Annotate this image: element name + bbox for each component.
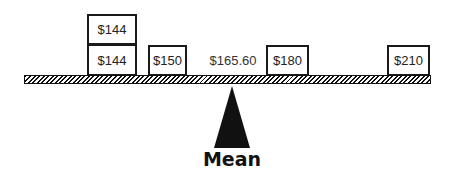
value-label: $180 bbox=[273, 53, 302, 68]
value-label: $210 bbox=[394, 53, 423, 68]
value-box-144-top: $144 bbox=[87, 14, 137, 45]
value-box-180: $180 bbox=[266, 45, 309, 76]
fulcrum-triangle-icon bbox=[212, 86, 252, 150]
mean-label: Mean bbox=[192, 148, 272, 170]
mean-value-label: $165.60 bbox=[198, 53, 268, 68]
value-box-210: $210 bbox=[387, 45, 430, 76]
value-label: $144 bbox=[98, 53, 127, 68]
value-box-144-bottom: $144 bbox=[87, 44, 137, 76]
seesaw-beam bbox=[24, 75, 431, 84]
value-label: $150 bbox=[153, 53, 182, 68]
value-label: $144 bbox=[98, 22, 127, 37]
value-box-150: $150 bbox=[148, 45, 187, 76]
